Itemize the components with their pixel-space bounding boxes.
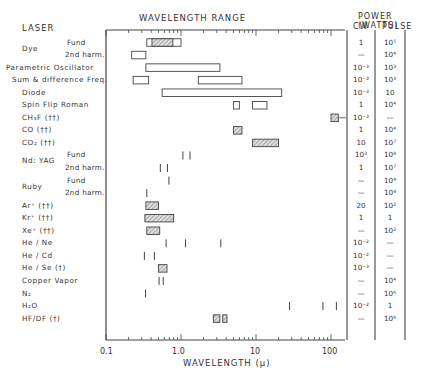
pulse-power-value: 10⁷ (373, 163, 407, 172)
row-label: Diode (22, 88, 46, 97)
pulse-power-value: — (373, 263, 407, 272)
pulse-power-value: — (373, 238, 407, 247)
row-label: HF/DF (†) (22, 314, 61, 323)
row-label: Parametric Oscillator (6, 63, 94, 72)
pulse-power-value: 10⁹ (373, 176, 407, 185)
pulse-power-value: 10⁶ (373, 314, 407, 323)
row-label: Kr⁺ (††) (22, 213, 53, 222)
row-label: He / Se (†) (22, 263, 66, 272)
row-label: H₂O (22, 301, 38, 310)
row-label: N₂ (22, 289, 31, 298)
pulse-power-value: 1 (373, 301, 407, 310)
pulse-power-value: 10⁵ (373, 38, 407, 47)
row-group-label: Ruby (22, 182, 42, 191)
row-sub-label: Fund (67, 150, 86, 159)
row-sub-label: 2nd harm. (65, 50, 105, 59)
pulse-power-value: 10² (373, 201, 407, 210)
pulse-power-value: 10 (373, 88, 407, 97)
pulse-power-value: 1 (373, 213, 407, 222)
x-tick-1.0: 1.0 (172, 347, 185, 356)
pulse-power-value: 10³ (373, 63, 407, 72)
pulse-power-value: 10³ (373, 75, 407, 84)
pulse-power-value: 10⁸ (373, 150, 407, 159)
row-sub-label: Fund (67, 38, 86, 47)
row-label: Spin Flip Roman (22, 100, 89, 109)
pulse-power-value: 10⁴ (373, 50, 407, 59)
x-tick-10: 10 (250, 347, 260, 356)
row-group-label: Dye (22, 44, 38, 53)
x-axis-label: WAVELENGTH (μ) (183, 358, 270, 368)
row-sub-label: 2nd harm. (65, 188, 105, 197)
row-sub-label: 2nd harm. (65, 163, 105, 172)
x-tick-0.1: 0.1 (100, 347, 113, 356)
row-label: He / Ne (22, 238, 53, 247)
row-label: He / Cd (22, 251, 53, 260)
pulse-power-value: 10⁴ (373, 125, 407, 134)
row-group-label: Nd: YAG (22, 156, 55, 165)
row-sub-label: Fund (67, 176, 86, 185)
pulse-power-value: 10⁴ (373, 100, 407, 109)
pulse-power-value: 10⁸ (373, 188, 407, 197)
row-label: Xe⁺ (††) (22, 226, 55, 235)
pulse-power-value: — (373, 251, 407, 260)
x-tick-100: 100 (322, 347, 337, 356)
row-label: Ar⁺ (††) (22, 201, 54, 210)
pulse-power-value: 10² (373, 226, 407, 235)
row-label: CH₃F (††) (22, 113, 60, 122)
pulse-power-value: 10⁷ (373, 138, 407, 147)
row-label: Sum & difference Freq. (12, 75, 108, 84)
pulse-power-value: 10⁶ (373, 289, 407, 298)
row-label: Copper Vapor (22, 276, 78, 285)
row-label: CO₂ (††) (22, 138, 55, 147)
pulse-power-value: — (373, 113, 407, 122)
pulse-power-value: 10⁴ (373, 276, 407, 285)
row-label: CO (††) (22, 125, 52, 134)
